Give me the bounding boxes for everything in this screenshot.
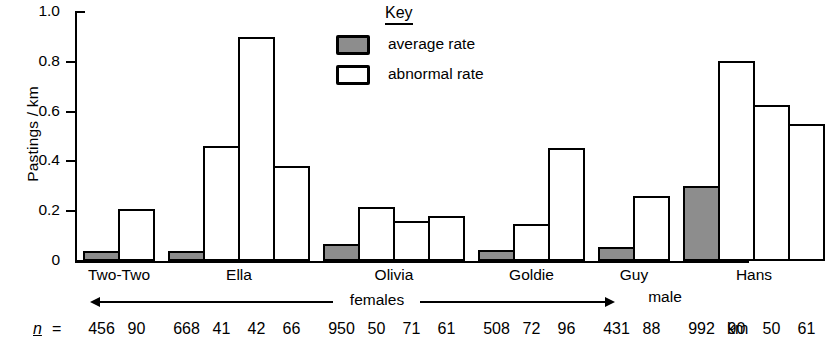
bar [273, 166, 310, 261]
sample-size-value: 66 [267, 320, 317, 338]
y-tick-label: 0.2 [0, 202, 60, 218]
bar [203, 146, 240, 261]
bar [598, 247, 635, 261]
bar [323, 244, 360, 261]
x-axis-label-two-two: Two-Two [59, 266, 179, 283]
arrow-line-right [420, 301, 607, 303]
bar [358, 207, 395, 261]
bar [548, 148, 585, 261]
bar [753, 105, 790, 261]
x-axis-label-ella: Ella [179, 266, 299, 283]
females-label: females [333, 291, 421, 309]
females-span-annotation: females [90, 295, 615, 309]
sample-size-value: 96 [542, 320, 592, 338]
sample-size-value: 61 [422, 320, 472, 338]
legend-swatch-abnormal-icon [336, 65, 370, 85]
bar [513, 224, 550, 261]
legend: Key average rate abnormal rate [330, 4, 560, 102]
bar [633, 196, 670, 261]
bar [788, 124, 825, 261]
bar [118, 209, 155, 261]
legend-title: Key [385, 4, 413, 25]
legend-swatch-average-icon [336, 35, 370, 55]
x-axis-label-guy: Guy [574, 266, 694, 283]
bar [683, 186, 720, 261]
sample-size-value: 88 [627, 320, 677, 338]
sample-size-value: 61 [782, 320, 829, 338]
bar [168, 251, 205, 261]
y-tick-label: 1.0 [0, 3, 60, 19]
y-tick-mark [66, 111, 77, 113]
y-tick-label: 0 [0, 252, 60, 268]
sample-size-row: n = km 456906684142669505071615087296431… [0, 320, 762, 346]
y-tick-mark [66, 210, 77, 212]
y-tick-mark [66, 160, 77, 162]
n-equals-sign: = [52, 320, 61, 338]
bar [238, 37, 275, 261]
x-axis-label-olivia: Olivia [334, 266, 454, 283]
sample-size-value: 90 [112, 320, 162, 338]
y-tick-label: 0.6 [0, 103, 60, 119]
male-label: male [610, 288, 720, 306]
arrow-line-left [98, 301, 333, 303]
bar [83, 251, 120, 261]
n-symbol: n [33, 320, 42, 338]
y-tick-mark [66, 61, 77, 63]
y-tick-label: 0.4 [0, 152, 60, 168]
bar [478, 250, 515, 261]
y-axis-title: Pastings / km [24, 44, 42, 224]
x-axis-line [75, 261, 749, 263]
y-tick-label: 0.8 [0, 53, 60, 69]
bar [428, 216, 465, 261]
x-axis-label-hans: Hans [694, 266, 814, 283]
bar [393, 221, 430, 261]
bar [718, 61, 755, 261]
legend-label-abnormal: abnormal rate [388, 65, 484, 83]
legend-label-average: average rate [388, 35, 475, 53]
